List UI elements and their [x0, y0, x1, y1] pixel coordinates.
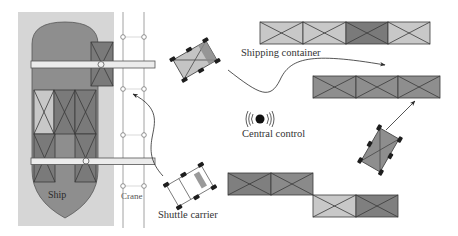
crane-beam-top[interactable] [31, 61, 155, 68]
port-diagram [0, 0, 458, 236]
yard-row-top [260, 22, 430, 44]
crane-nodes [121, 35, 147, 189]
yard-row-bottom [228, 173, 398, 217]
shipping-container-label: Shipping container [241, 48, 321, 59]
shuttle-carrier-loaded-top[interactable] [169, 37, 221, 83]
central-control-label: Central control [242, 129, 305, 140]
crane-label: Crane [121, 192, 143, 201]
crane-beam-bottom[interactable] [31, 158, 155, 165]
shuttle-carrier-loaded-right[interactable] [357, 124, 403, 176]
central-control-icon [246, 111, 274, 127]
ship-label: Ship [48, 190, 66, 200]
yard-row-middle [313, 76, 440, 98]
shuttle-carrier-empty[interactable] [163, 162, 218, 211]
shuttle-carrier-label: Shuttle carrier [158, 210, 218, 221]
arrow-right-carrier-to-yard [386, 101, 415, 130]
